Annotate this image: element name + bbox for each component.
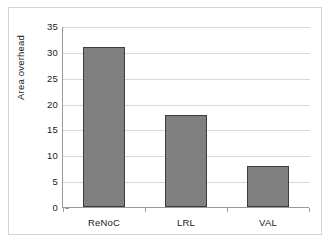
y-axis-ticks: 35 30 25 20 15 10 5 0	[8, 0, 58, 248]
y-tick-label-10: 10	[14, 151, 58, 161]
y-tick-label-5: 5	[14, 177, 58, 187]
bar-slot-lrl	[145, 26, 227, 207]
x-tick-mark-0	[63, 208, 64, 212]
y-tick-label-35: 35	[14, 22, 58, 32]
y-tick-label-15: 15	[14, 125, 58, 135]
x-tick-mark-2	[227, 208, 228, 212]
y-tick-mark-0	[65, 208, 69, 209]
x-tick-label-renoc: ReNoC	[63, 217, 145, 228]
bar-chart-figure: Area overhead 35 30 25 20 15 10 5 0	[0, 0, 333, 248]
x-tick-label-lrl: LRL	[145, 217, 227, 228]
y-tick-label-0: 0	[14, 203, 58, 213]
y-tick-label-20: 20	[14, 100, 58, 110]
bar-val[interactable]	[247, 166, 289, 207]
y-tick-label-30: 30	[14, 48, 58, 58]
plot-area: ReNoC LRL VAL	[62, 27, 309, 208]
x-tick-mark-1	[145, 208, 146, 212]
bar-renoc[interactable]	[83, 47, 125, 207]
x-tick-label-val: VAL	[227, 217, 309, 228]
x-tick-mark-3	[309, 208, 310, 212]
bar-slot-val	[227, 26, 309, 207]
y-tick-label-25: 25	[14, 74, 58, 84]
bar-lrl[interactable]	[165, 115, 207, 207]
bar-slot-renoc	[63, 26, 145, 207]
